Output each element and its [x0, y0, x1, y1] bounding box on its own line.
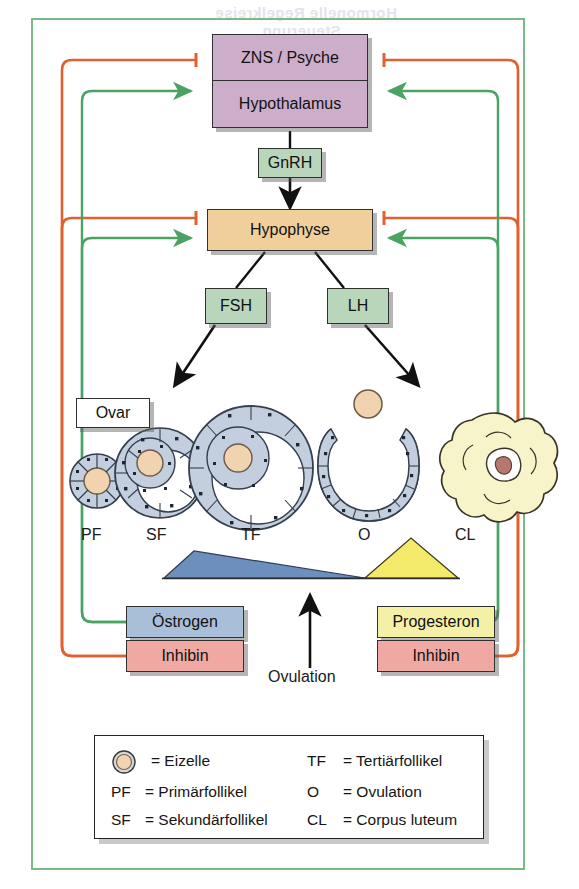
- legend-key-o: O: [307, 783, 319, 801]
- progesteron-box[interactable]: Progesteron: [377, 606, 495, 638]
- stage-label-cl: CL: [455, 526, 475, 544]
- hypothalamus-label: Hypothalamus: [213, 81, 367, 127]
- oestrogen-curve: [164, 551, 365, 578]
- fsh-box[interactable]: FSH: [205, 288, 267, 324]
- cns-hypothalamus-box[interactable]: ZNS / Psyche Hypothalamus: [212, 34, 368, 128]
- lh-box[interactable]: LH: [327, 288, 389, 324]
- stage-label-sf: SF: [146, 526, 166, 544]
- diagram-canvas: Hormonelle Regelkreise Steuerung: [0, 0, 579, 889]
- legend-key-pf: PF: [111, 783, 131, 801]
- stage-label-o: O: [358, 526, 370, 544]
- legend-key-tf: TF: [307, 752, 326, 770]
- legend-text-pf: = Primärfollikel: [145, 783, 247, 801]
- legend-text-sf: = Sekundärfollikel: [145, 811, 268, 829]
- legend-text-tf: = Tertiärfollikel: [343, 752, 442, 770]
- legend-text-cl: = Corpus luteum: [343, 811, 457, 829]
- hypophyse-box[interactable]: Hypophyse: [207, 209, 373, 251]
- progesteron-curve: [365, 538, 458, 578]
- legend-box: = Eizelle PF = Primärfollikel SF = Sekun…: [94, 735, 484, 839]
- inhibin-right-box[interactable]: Inhibin: [377, 640, 495, 672]
- legend-key-cl: CL: [307, 811, 327, 829]
- ovulation-label: Ovulation: [268, 668, 336, 686]
- oestrogen-box[interactable]: Östrogen: [126, 606, 244, 638]
- cns-label: ZNS / Psyche: [213, 35, 367, 81]
- legend-text-eizelle: = Eizelle: [151, 752, 210, 770]
- inhibin-left-box[interactable]: Inhibin: [126, 640, 244, 672]
- oocyte-icon: [111, 749, 137, 775]
- ovar-label-box: Ovar: [76, 398, 150, 428]
- legend-text-o: = Ovulation: [343, 783, 422, 801]
- gnrh-box[interactable]: GnRH: [258, 148, 322, 178]
- legend-key-sf: SF: [111, 811, 131, 829]
- stage-label-pf: PF: [81, 526, 101, 544]
- stage-label-tf: TF: [241, 526, 261, 544]
